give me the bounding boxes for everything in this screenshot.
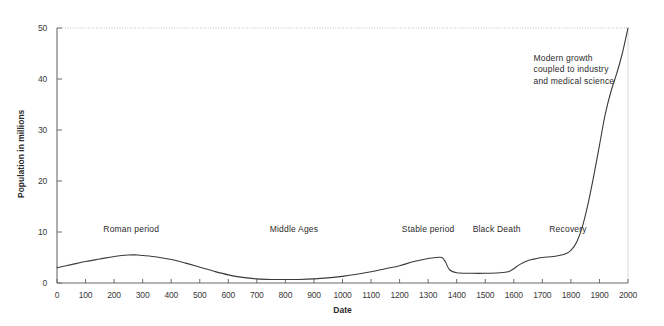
x-tick-label: 100 [79,290,93,300]
x-tick-label: 600 [222,290,236,300]
x-tick-label: 300 [136,290,150,300]
y-tick-label: 10 [0,227,47,237]
annotation-label: Middle Ages [270,224,319,234]
x-tick-label: 900 [307,290,321,300]
x-tick-label: 1400 [448,290,466,300]
annotation-label: Recovery [549,224,587,234]
y-tick-label: 50 [0,23,47,33]
x-tick-label: 1800 [562,290,580,300]
y-tick-label: 0 [0,278,47,288]
population-chart-figure: 01020304050 0100200300400500600700800900… [0,0,664,326]
x-tick-label: 1100 [362,290,379,300]
x-tick-label: 1000 [333,290,351,300]
annotation-label: Stable period [402,224,455,234]
x-tick-label: 1900 [590,290,608,300]
x-tick-label: 500 [193,290,207,300]
x-tick-label: 400 [164,290,178,300]
x-tick-label: 1500 [476,290,494,300]
x-tick-label: 0 [55,290,60,300]
y-axis-title: Population in millions [16,109,26,197]
x-tick-label: 2000 [619,290,637,300]
y-tick-label: 40 [0,74,47,84]
x-tick-label: 1300 [419,290,437,300]
annotation-label: Black Death [473,224,521,234]
x-tick-label: 800 [279,290,293,300]
annotation-label: Modern growth coupled to industry and me… [533,53,625,88]
x-tick-label: 700 [250,290,264,300]
x-tick-label: 1700 [533,290,551,300]
chart-plot-area [0,0,664,326]
x-tick-label: 1600 [505,290,523,300]
x-tick-label: 1200 [391,290,409,300]
annotation-label: Roman period [103,224,159,234]
x-tick-label: 200 [107,290,121,300]
x-axis-title: Date [333,305,351,315]
